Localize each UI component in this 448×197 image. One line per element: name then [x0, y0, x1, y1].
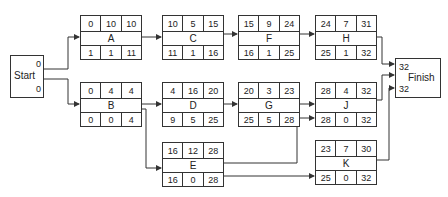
activity-label: J — [316, 98, 376, 112]
ef: 10 — [122, 16, 141, 31]
lf: 25 — [204, 113, 223, 127]
finish-label: Finish — [408, 72, 435, 83]
lf: 32 — [357, 46, 376, 60]
lf: 11 — [122, 46, 141, 60]
activity-label: H — [316, 31, 376, 45]
activity-node-c: 10515 C 11116 — [162, 15, 224, 60]
activity-label: B — [81, 98, 141, 112]
es: 28 — [316, 83, 336, 98]
activity-label: G — [239, 98, 299, 112]
ls: 1 — [81, 46, 101, 60]
slack: 1 — [259, 46, 279, 60]
start-label: Start — [14, 70, 35, 81]
es: 0 — [81, 16, 101, 31]
activity-label: D — [163, 98, 223, 112]
activity-label: C — [163, 31, 223, 45]
lf: 32 — [357, 113, 376, 127]
activity-node-a: 01010 A 1111 — [80, 15, 142, 60]
activity-node-h: 24731 H 25132 — [315, 15, 377, 60]
activity-node-b: 044 B 004 — [80, 82, 142, 127]
es: 24 — [316, 16, 336, 31]
finish-value-top: 32 — [399, 62, 409, 72]
duration: 5 — [183, 16, 203, 31]
connector-arrows — [0, 0, 448, 197]
es: 4 — [163, 83, 183, 98]
ls: 11 — [163, 46, 183, 60]
duration: 9 — [259, 16, 279, 31]
lf: 28 — [204, 173, 223, 187]
es: 23 — [316, 141, 336, 156]
ls: 25 — [316, 46, 336, 60]
activity-node-f: 15924 F 16125 — [238, 15, 300, 60]
start-node: Start 0 0 — [10, 55, 44, 98]
activity-node-k: 23730 K 25032 — [315, 140, 377, 185]
ef: 31 — [357, 16, 376, 31]
duration: 4 — [336, 83, 356, 98]
finish-node: 32 Finish 32 — [395, 58, 441, 98]
activity-label: E — [163, 158, 223, 172]
activity-node-e: 161228 E 16028 — [162, 142, 224, 187]
finish-value-bottom: 32 — [399, 84, 409, 94]
activity-node-d: 41620 D 9525 — [162, 82, 224, 127]
duration: 7 — [336, 16, 356, 31]
ef: 30 — [357, 141, 376, 156]
duration: 4 — [101, 83, 121, 98]
slack: 0 — [336, 113, 356, 127]
es: 15 — [239, 16, 259, 31]
ls: 0 — [81, 113, 101, 127]
slack: 0 — [101, 113, 121, 127]
es: 20 — [239, 83, 259, 98]
slack: 1 — [183, 46, 203, 60]
duration: 7 — [336, 141, 356, 156]
duration: 12 — [183, 143, 203, 158]
ef: 23 — [280, 83, 299, 98]
ef: 28 — [204, 143, 223, 158]
ef: 20 — [204, 83, 223, 98]
activity-label: F — [239, 31, 299, 45]
slack: 1 — [101, 46, 121, 60]
network-diagram: Start 0 0 32 Finish 32 01010 A 1111 1051… — [0, 0, 448, 197]
lf: 4 — [122, 113, 141, 127]
ls: 28 — [316, 113, 336, 127]
lf: 28 — [280, 113, 299, 127]
slack: 0 — [336, 171, 356, 185]
slack: 0 — [183, 173, 203, 187]
duration: 16 — [183, 83, 203, 98]
ef: 4 — [122, 83, 141, 98]
lf: 16 — [204, 46, 223, 60]
slack: 5 — [259, 113, 279, 127]
duration: 3 — [259, 83, 279, 98]
ls: 25 — [316, 171, 336, 185]
lf: 32 — [357, 171, 376, 185]
ls: 16 — [239, 46, 259, 60]
start-value-bottom: 0 — [36, 84, 41, 94]
es: 16 — [163, 143, 183, 158]
es: 10 — [163, 16, 183, 31]
start-value-top: 0 — [36, 59, 41, 69]
lf: 25 — [280, 46, 299, 60]
ls: 16 — [163, 173, 183, 187]
activity-label: A — [81, 31, 141, 45]
ls: 25 — [239, 113, 259, 127]
duration: 10 — [101, 16, 121, 31]
ef: 24 — [280, 16, 299, 31]
activity-label: K — [316, 156, 376, 170]
activity-node-j: 28432 J 28032 — [315, 82, 377, 127]
activity-node-g: 20323 G 25528 — [238, 82, 300, 127]
ls: 9 — [163, 113, 183, 127]
es: 0 — [81, 83, 101, 98]
ef: 15 — [204, 16, 223, 31]
slack: 1 — [336, 46, 356, 60]
slack: 5 — [183, 113, 203, 127]
ef: 32 — [357, 83, 376, 98]
